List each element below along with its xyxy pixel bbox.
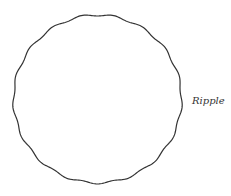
shape-label: Ripple [192,95,225,106]
